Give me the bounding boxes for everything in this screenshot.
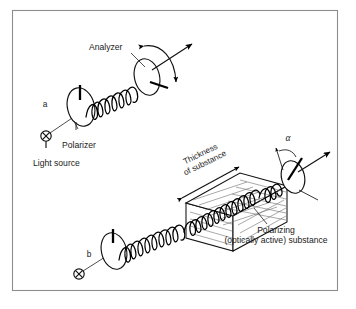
panel-label-a: a <box>43 99 48 109</box>
label-polarizer-a: Polarizer <box>62 140 96 150</box>
panel-label-b: b <box>87 249 92 259</box>
figure-root: Analyzer Polarizer Light source a <box>0 0 356 309</box>
polarimetry-diagram: Analyzer Polarizer Light source a <box>0 0 356 309</box>
label-substance-line2: (optically active) substance <box>224 235 327 245</box>
label-substance-line1: Polarizing <box>257 225 295 235</box>
label-light-source-a: Light source <box>33 158 80 168</box>
label-analyzer-a: Analyzer <box>89 42 123 52</box>
